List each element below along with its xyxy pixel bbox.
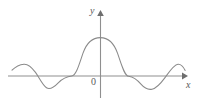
x-axis-label: x: [186, 80, 190, 90]
y-axis-arrowhead: [97, 10, 104, 16]
function-curve: [12, 38, 185, 90]
y-axis-label: y: [90, 6, 94, 16]
origin-label: 0: [91, 77, 96, 87]
plot-canvas: [0, 0, 202, 109]
graph-figure: y x 0: [0, 0, 202, 109]
